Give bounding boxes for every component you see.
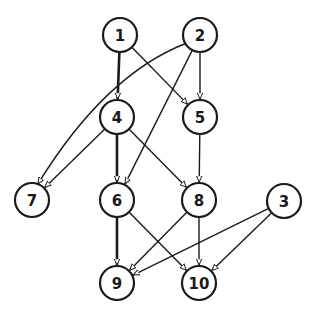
node-label: 1 [115,27,125,45]
node-label: 3 [279,193,289,211]
node-1: 1 [103,18,137,52]
dag-diagram: 12345678910 [0,0,312,320]
node-label: 5 [195,109,205,127]
node-label: 6 [112,192,122,210]
node-2: 2 [183,18,217,52]
node-label: 2 [195,27,205,45]
node-label: 9 [112,275,122,293]
node-label: 7 [27,192,37,210]
edges-layer [38,44,272,276]
node-10: 10 [182,266,216,300]
node-5: 5 [183,100,217,134]
node-label: 10 [189,275,210,293]
node-4: 4 [100,100,134,134]
node-3: 3 [267,184,301,218]
node-label: 8 [194,192,204,210]
node-label: 4 [112,109,122,127]
edge-5-to-8 [199,134,200,182]
edge-1-to-4 [118,52,120,99]
node-9: 9 [100,266,134,300]
node-6: 6 [100,183,134,217]
node-8: 8 [182,183,216,217]
node-7: 7 [15,183,49,217]
